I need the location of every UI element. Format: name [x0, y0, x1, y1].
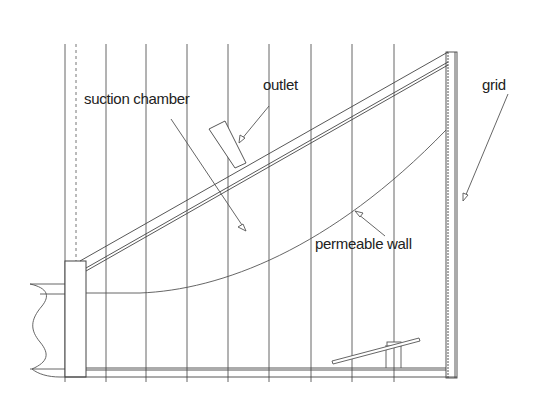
- permeable-wall-curve: [86, 130, 446, 293]
- inlet-pipe: [30, 284, 65, 377]
- diagram-canvas: [0, 0, 536, 400]
- grid-arrow: [463, 94, 508, 201]
- label-grid: grid: [482, 77, 506, 92]
- outlet-duct: [209, 121, 246, 168]
- suction-chamber-arrow: [171, 119, 246, 231]
- label-outlet: outlet: [263, 77, 298, 92]
- permeable-wall-arrow: [355, 211, 385, 236]
- label-suction-chamber: suction chamber: [84, 91, 190, 106]
- grid-frame: [446, 52, 457, 378]
- outlet-arrow: [239, 106, 269, 143]
- left-wall-block: [65, 261, 86, 377]
- label-permeable-wall: permeable wall: [315, 236, 412, 251]
- floor: [65, 368, 457, 377]
- bottom-ramp: [332, 338, 420, 368]
